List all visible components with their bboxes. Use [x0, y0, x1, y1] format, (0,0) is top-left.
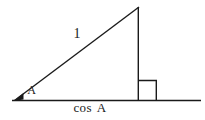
right-triangle-diagram: 1 A cos A	[0, 0, 205, 120]
angle-label: A	[27, 83, 36, 97]
trig-right-triangle-figure: 1 A cos A	[0, 0, 205, 120]
hypotenuse-label: 1	[74, 26, 81, 41]
right-angle-marker	[138, 81, 156, 101]
base-label: cos A	[73, 100, 106, 115]
